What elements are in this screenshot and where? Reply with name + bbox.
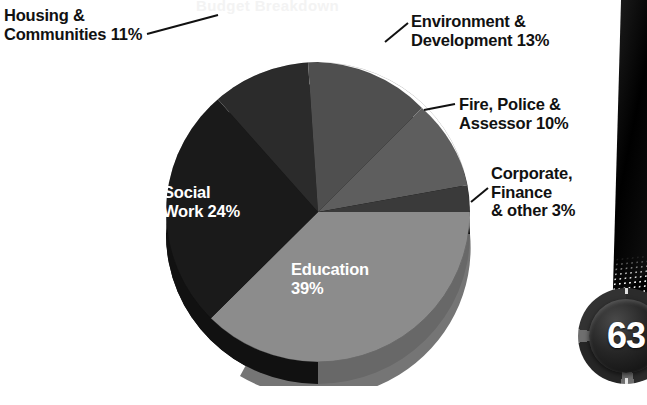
leader-line-housing bbox=[147, 15, 218, 34]
label-education: Education 39% bbox=[291, 260, 369, 299]
label-environment-development: Environment & Development 13% bbox=[411, 12, 549, 49]
number-badge: 63 bbox=[578, 288, 647, 384]
label-fire-police-assessor: Fire, Police & Assessor 10% bbox=[459, 95, 569, 132]
leader-line-corporate bbox=[471, 188, 488, 202]
label-housing-communities: Housing & Communities 11% bbox=[4, 6, 142, 43]
label-corporate-finance: Corporate, Finance & other 3% bbox=[491, 164, 575, 220]
leader-line-fire bbox=[424, 104, 455, 110]
badge-number: 63 bbox=[607, 315, 645, 357]
leader-line-environment bbox=[385, 23, 408, 42]
pie-chart bbox=[90, 8, 482, 386]
label-social-work: Social Work 24% bbox=[163, 183, 240, 222]
chart-canvas: Budget Breakdown bbox=[0, 0, 647, 405]
